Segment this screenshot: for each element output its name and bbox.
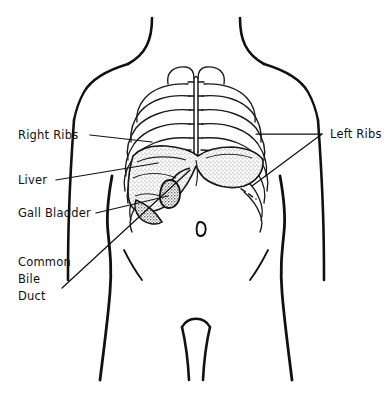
anatomy-figure: Right Ribs Liver Gall Bladder Common Bil…	[0, 0, 392, 400]
label-liver: Liver	[18, 173, 47, 187]
label-common-bile-duct-line1: Common	[18, 255, 71, 269]
canvas-background	[0, 0, 392, 400]
label-common-bile-duct-line3: Duct	[18, 289, 46, 303]
anatomy-illustration: Right Ribs Liver Gall Bladder Common Bil…	[0, 0, 392, 400]
label-right-ribs: Right Ribs	[18, 128, 78, 142]
label-gall-bladder: Gall Bladder	[18, 206, 91, 220]
label-common-bile-duct-line2: Bile	[18, 272, 40, 286]
label-left-ribs: Left Ribs	[330, 127, 382, 141]
